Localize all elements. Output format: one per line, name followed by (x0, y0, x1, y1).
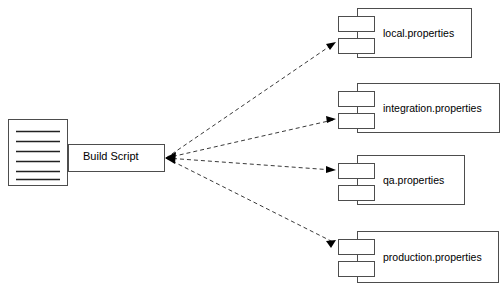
build-script-label: Build Script (83, 151, 139, 162)
component-tab-lower (339, 186, 375, 201)
component-tab-upper (339, 164, 375, 179)
diagram-vector-layer (0, 0, 504, 294)
connector-production (166, 158, 333, 242)
component-tab-lower (339, 262, 375, 277)
diagram-canvas: Build Script local.properties integratio… (0, 0, 504, 294)
component-tab-lower (339, 39, 375, 54)
component-tab-upper (339, 240, 375, 255)
component-tab-upper (339, 17, 375, 32)
document-icon (9, 120, 68, 186)
component-label-local: local.properties (383, 28, 454, 39)
connector-local (166, 44, 333, 158)
arrowhead-production (326, 240, 336, 248)
component-label-production: production.properties (383, 252, 482, 263)
component-label-qa: qa.properties (383, 175, 444, 186)
component-tab-lower (339, 114, 375, 129)
arrowhead-qa (326, 166, 336, 173)
arrowhead-local (326, 42, 336, 50)
connector-arrowhead-source (165, 152, 176, 164)
dependency-connectors (166, 44, 333, 242)
component-label-integration: integration.properties (383, 103, 482, 114)
component-tab-upper (339, 92, 375, 107)
connector-integration (166, 120, 333, 158)
arrowhead-build-script (165, 152, 176, 164)
connector-arrowheads-target (326, 42, 336, 248)
arrowhead-integration (326, 116, 336, 123)
connector-qa (166, 158, 333, 170)
